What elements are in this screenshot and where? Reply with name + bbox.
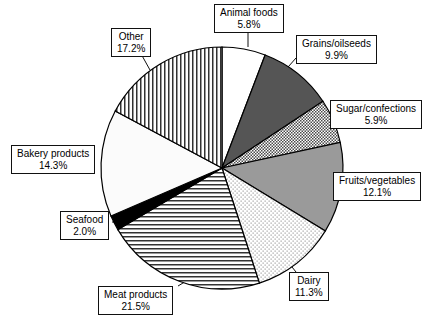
callout-value: 5.9%	[336, 115, 416, 127]
callout-value: 17.2%	[117, 43, 145, 55]
callout-value: 11.3%	[295, 287, 323, 299]
callout-value: 5.8%	[220, 19, 278, 31]
callout-label: Grains/oilseeds	[302, 38, 371, 50]
callout-label: Dairy	[295, 275, 323, 287]
callout-other: Other 17.2%	[111, 28, 151, 57]
callout-label: Animal foods	[220, 7, 278, 19]
callout-grains-oilseeds: Grains/oilseeds 9.9%	[296, 35, 377, 64]
pie-chart-figure: Animal foods 5.8% Grains/oilseeds 9.9% S…	[0, 0, 440, 331]
callout-seafood: Seafood 2.0%	[60, 211, 109, 240]
callout-dairy: Dairy 11.3%	[289, 272, 329, 301]
callout-value: 14.3%	[17, 160, 89, 172]
callout-bakery-products: Bakery products 14.3%	[11, 145, 95, 174]
callout-sugar-confections: Sugar/confections 5.9%	[330, 100, 422, 129]
callout-label: Meat products	[104, 289, 167, 301]
callout-value: 2.0%	[66, 226, 103, 238]
callout-meat-products: Meat products 21.5%	[98, 286, 173, 315]
callout-label: Fruits/vegetables	[339, 175, 415, 187]
pie-slices	[101, 47, 343, 289]
callout-value: 9.9%	[302, 50, 371, 62]
callout-label: Sugar/confections	[336, 103, 416, 115]
callout-value: 12.1%	[339, 187, 415, 199]
callout-label: Bakery products	[17, 148, 89, 160]
callout-value: 21.5%	[104, 301, 167, 313]
callout-label: Seafood	[66, 214, 103, 226]
callout-animal-foods: Animal foods 5.8%	[214, 4, 284, 33]
callout-fruits-vegetables: Fruits/vegetables 12.1%	[333, 172, 421, 201]
callout-label: Other	[117, 31, 145, 43]
